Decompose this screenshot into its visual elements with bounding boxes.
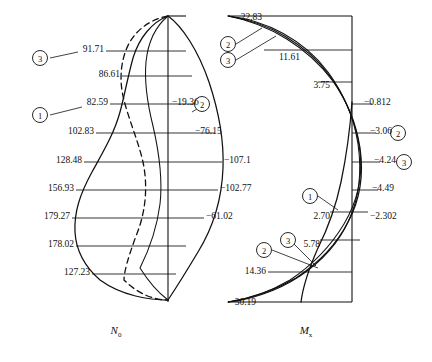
n0-callout-1: 1	[33, 108, 48, 123]
callout-number: 2	[226, 40, 230, 50]
n0-value-178-02: 178.02	[48, 239, 74, 249]
n0-value-neg-102-77: −102.77	[220, 183, 252, 193]
n0-leader-3	[50, 52, 78, 58]
callout-number: 3	[402, 158, 406, 168]
mx-value-3-75: 3.75	[313, 80, 330, 90]
internal-force-diagram: 3 1 2 91.71 86.61 82.59 102.83 128.48 15…	[0, 0, 432, 362]
n0-value-127-23: 127.23	[64, 267, 90, 277]
mx-callout-3-top: 3	[221, 53, 236, 68]
callout-number: 1	[308, 192, 312, 202]
n0-value-neg-61-02: −61.02	[206, 211, 233, 221]
mx-leader-2a	[236, 28, 262, 44]
n0-curve-1	[75, 16, 168, 300]
mx-value-5-78: 5.78	[303, 239, 320, 249]
mx-value-22-83: 22.83	[241, 12, 263, 22]
n0-curve-2	[168, 16, 223, 300]
mx-value-neg-0-812: −0.812	[364, 97, 391, 107]
mx-value-2-70: 2.70	[313, 211, 330, 221]
mx-axis-caption: Mx	[299, 324, 313, 339]
mx-value-30-19: 30.19	[235, 297, 257, 307]
mx-value-neg-3-06: −3.06	[370, 126, 392, 136]
mx-leader-2b	[272, 250, 318, 268]
callout-number: 3	[38, 54, 42, 64]
mx-value-neg-2-302: −2.302	[370, 211, 397, 221]
panel-n0: 3 1 2 91.71 86.61 82.59 102.83 128.48 15…	[33, 16, 252, 339]
n0-value-neg-19-36: −19.36	[172, 97, 199, 107]
callout-number: 2	[262, 246, 266, 256]
panel-mx: 2 3 2 3 1 2 3 22.83 11.61 3.75 2.70	[221, 12, 412, 339]
mx-callout-1: 1	[303, 189, 318, 204]
n0-value-156-93: 156.93	[48, 183, 74, 193]
callout-number: 1	[38, 111, 42, 121]
n0-axis-caption: N0	[110, 324, 122, 339]
n0-curve-1b	[140, 16, 168, 300]
mx-value-11-61: 11.61	[279, 52, 300, 62]
mx-callout-2-bottom: 2	[257, 243, 272, 258]
n0-value-179-27: 179.27	[44, 211, 70, 221]
n0-value-82-59: 82.59	[87, 97, 109, 107]
mx-callout-2-top: 2	[221, 37, 236, 52]
n0-value-86-61: 86.61	[99, 69, 121, 79]
mx-value-neg-4-24: −4.24	[374, 155, 396, 165]
n0-callout-3: 3	[33, 51, 48, 66]
mx-callout-3-bottom: 3	[281, 233, 296, 248]
n0-value-neg-107-1: −107.1	[224, 155, 251, 165]
mx-leader-3a	[236, 36, 276, 60]
mx-leader-1	[318, 196, 338, 210]
callout-number: 2	[396, 129, 400, 139]
mx-callout-3-right: 3	[397, 155, 412, 170]
n0-value-102-83: 102.83	[68, 126, 94, 136]
callout-number: 2	[200, 100, 204, 110]
callout-number: 3	[286, 236, 290, 246]
mx-value-14-36: 14.36	[245, 266, 267, 276]
n0-leader-1	[50, 107, 82, 115]
mx-value-neg-4-49: −4.49	[372, 183, 394, 193]
callout-number: 3	[226, 56, 230, 66]
n0-value-91-71: 91.71	[83, 44, 105, 54]
mx-callout-2-right: 2	[391, 126, 406, 141]
n0-value-128-48: 128.48	[56, 155, 82, 165]
n0-value-neg-76-15: −76.15	[195, 126, 222, 136]
